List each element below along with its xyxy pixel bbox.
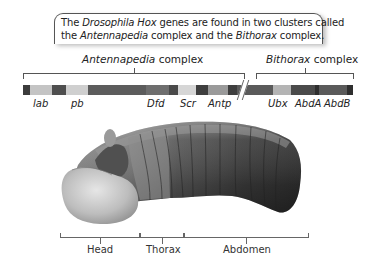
- region-label-head: Head: [87, 244, 113, 255]
- abdomen-bracket: [184, 233, 309, 238]
- head-bracket: [60, 233, 140, 238]
- region-label-thorax: Thorax: [146, 244, 181, 255]
- region-label-abdomen: Abdomen: [223, 244, 271, 255]
- thorax-bracket: [140, 233, 184, 238]
